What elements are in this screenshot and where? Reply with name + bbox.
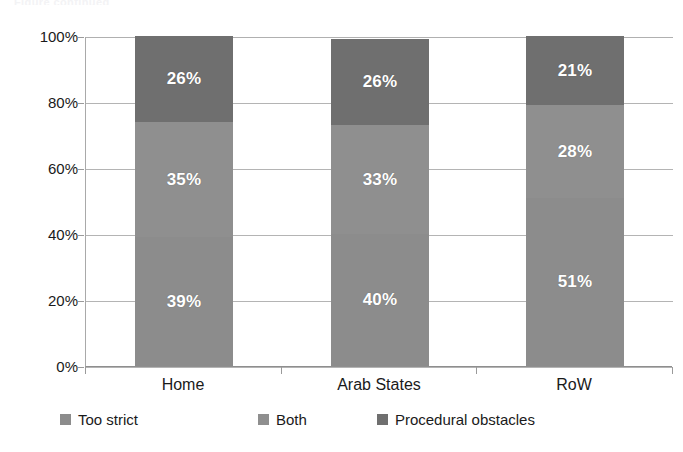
bar-segment-value-label: 51% (558, 272, 593, 292)
x-axis-tick-mark (85, 367, 86, 374)
bar-segment-both[interactable]: 35% (135, 122, 233, 238)
y-axis-tick-mark (78, 235, 84, 236)
bar-segment-procedural-obstacles[interactable]: 26% (331, 39, 429, 125)
bar-segment-too-strict[interactable]: 40% (331, 234, 429, 366)
bar-home[interactable]: 26%35%39% (135, 36, 233, 366)
bar-segment-procedural-obstacles[interactable]: 26% (135, 36, 233, 122)
y-axis-tick-mark (78, 367, 84, 368)
bar-segment-value-label: 26% (167, 69, 202, 89)
bar-segment-value-label: 28% (558, 142, 593, 162)
legend-label: Too strict (78, 411, 138, 428)
y-axis-tick-label: 0% (16, 358, 78, 375)
bar-arab-states[interactable]: 26%33%40% (331, 39, 429, 366)
legend-item-too-strict[interactable]: Too strict (60, 411, 138, 428)
legend-swatch-icon (258, 414, 269, 425)
bar-segment-value-label: 26% (363, 72, 398, 92)
gridline-0 (86, 367, 673, 368)
legend-label: Both (276, 411, 307, 428)
y-axis-tick-label: 40% (16, 226, 78, 243)
bar-row[interactable]: 21%28%51% (526, 36, 624, 366)
bar-segment-value-label: 39% (167, 292, 202, 312)
x-axis-tick-mark (672, 367, 673, 374)
y-axis-tick-mark (78, 103, 84, 104)
y-axis-tick-mark (78, 301, 84, 302)
y-axis-tick-label: 100% (16, 28, 78, 45)
legend-item-both[interactable]: Both (258, 411, 307, 428)
bar-segment-value-label: 21% (558, 61, 593, 81)
legend-swatch-icon (60, 414, 71, 425)
x-axis-label-row: RoW (474, 376, 674, 394)
y-axis-tick-label: 20% (16, 292, 78, 309)
y-axis: 100%80%60%40%20%0% (8, 37, 78, 367)
legend-item-procedural-obstacles[interactable]: Procedural obstacles (377, 411, 535, 428)
stacked-bar-chart: 100%80%60%40%20%0% 26%35%39%26%33%40%21%… (0, 0, 683, 452)
legend-label: Procedural obstacles (395, 411, 535, 428)
y-axis-tick-label: 80% (16, 94, 78, 111)
bar-segment-procedural-obstacles[interactable]: 21% (526, 36, 624, 105)
bar-segment-value-label: 35% (167, 170, 202, 190)
y-axis-tick-label: 60% (16, 160, 78, 177)
legend-swatch-icon (377, 414, 388, 425)
bar-segment-value-label: 33% (363, 170, 398, 190)
x-axis-label-home: Home (83, 376, 283, 394)
bar-segment-both[interactable]: 33% (331, 125, 429, 234)
y-axis-tick-mark (78, 169, 84, 170)
x-axis-tick-mark (476, 367, 477, 374)
chart-legend: Too strictBothProcedural obstacles (60, 411, 535, 428)
bar-segment-value-label: 40% (363, 290, 398, 310)
plot-area: 26%35%39%26%33%40%21%28%51% (85, 37, 672, 367)
bar-segment-too-strict[interactable]: 39% (135, 237, 233, 366)
x-axis-tick-mark (281, 367, 282, 374)
bar-segment-too-strict[interactable]: 51% (526, 198, 624, 366)
bar-segment-both[interactable]: 28% (526, 105, 624, 197)
x-axis-label-arab-states: Arab States (279, 376, 479, 394)
y-axis-tick-mark (78, 37, 84, 38)
